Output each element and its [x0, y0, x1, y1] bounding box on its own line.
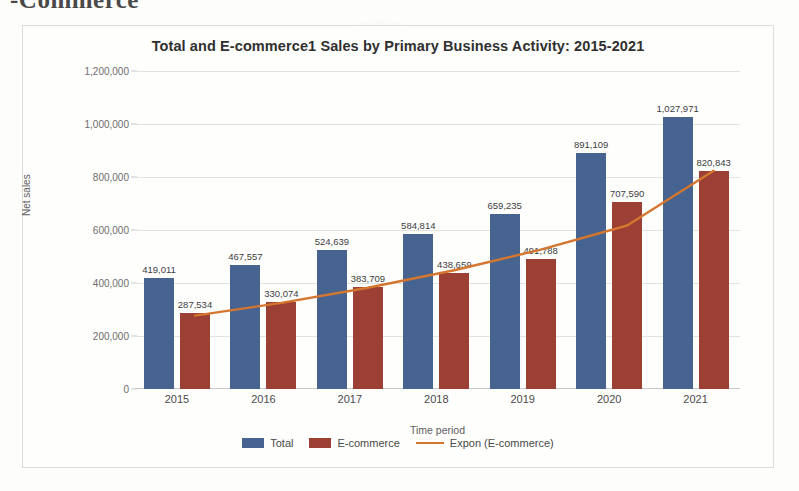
bar-total[interactable] [663, 117, 693, 389]
bar-total[interactable] [317, 250, 347, 389]
legend-item[interactable]: E-commerce [309, 437, 399, 449]
bar-value-label: 491,788 [524, 245, 558, 256]
legend-swatch [242, 438, 264, 448]
y-axis-ticks: 0200,000400,000600,000800,0001,000,0001,… [53, 71, 129, 389]
bar-total[interactable] [144, 278, 174, 389]
x-axis-tick-label: 2018 [394, 393, 478, 405]
x-axis-title: Time period [135, 424, 740, 436]
bar-group: 419,011287,5342015 [135, 71, 221, 389]
legend-label: Expon (E-commerce) [450, 437, 554, 449]
x-axis-tick-label: 2015 [135, 393, 219, 405]
legend-swatch [309, 438, 331, 448]
y-axis-tick-label: 800,000 [93, 172, 129, 183]
bar-group: 467,557330,0742016 [221, 71, 307, 389]
bar-ecom[interactable] [699, 171, 729, 389]
document-cutoff-heading: -Commerce [10, 0, 139, 14]
y-axis-tick-label: 1,000,000 [85, 119, 130, 130]
bar-ecom[interactable] [180, 313, 210, 389]
bar-ecom[interactable] [526, 259, 556, 389]
bar-group: 584,814438,6592018 [394, 71, 480, 389]
y-axis-title: Net sales [21, 174, 32, 216]
x-axis-tick-label: 2017 [308, 393, 392, 405]
y-axis-tick-label: 400,000 [93, 278, 129, 289]
bar-value-label: 419,011 [142, 264, 176, 275]
bar-value-label: 820,843 [696, 157, 730, 168]
bar-value-label: 438,659 [437, 259, 471, 270]
bar-total[interactable] [403, 234, 433, 389]
bar-total[interactable] [576, 153, 606, 389]
bar-value-label: 524,639 [315, 236, 349, 247]
chart-title: Total and E-commerce1 Sales by Primary B… [23, 38, 773, 54]
bar-ecom[interactable] [266, 302, 296, 389]
bar-value-label: 584,814 [401, 220, 435, 231]
x-axis-tick-label: 2016 [221, 393, 305, 405]
bar-ecom[interactable] [353, 287, 383, 389]
legend-item[interactable]: Expon (E-commerce) [416, 437, 554, 449]
bar-value-label: 287,534 [178, 299, 212, 310]
bar-ecom[interactable] [439, 273, 469, 389]
bar-value-label: 659,235 [488, 200, 522, 211]
y-axis-tick-label: 600,000 [93, 225, 129, 236]
bar-value-label: 330,074 [264, 288, 298, 299]
bar-total[interactable] [490, 214, 520, 389]
bar-group: 659,235491,7882019 [481, 71, 567, 389]
bar-group: 891,109707,5902020 [567, 71, 653, 389]
bar-value-label: 1,027,971 [656, 103, 698, 114]
x-axis-tick-label: 2021 [654, 393, 738, 405]
x-axis-tick-label: 2020 [567, 393, 651, 405]
chart-legend: TotalE-commerceExpon (E-commerce) [23, 437, 773, 449]
bar-value-label: 383,709 [351, 273, 385, 284]
plot-area: 419,011287,5342015467,557330,0742016524,… [135, 71, 740, 389]
legend-label: Total [270, 437, 293, 449]
legend-swatch [416, 442, 444, 444]
y-axis-tick-label: 200,000 [93, 331, 129, 342]
bar-value-label: 891,109 [574, 139, 608, 150]
y-axis-tick-label: 1,200,000 [85, 66, 130, 77]
y-axis-tick-label: 0 [123, 384, 129, 395]
bar-total[interactable] [230, 265, 260, 389]
bar-ecom[interactable] [612, 202, 642, 390]
bar-value-label: 467,557 [228, 251, 262, 262]
chart-container: Total and E-commerce1 Sales by Primary B… [22, 25, 774, 468]
legend-label: E-commerce [337, 437, 399, 449]
x-axis-tick-label: 2019 [481, 393, 565, 405]
bar-value-label: 707,590 [610, 188, 644, 199]
bar-group: 524,639383,7092017 [308, 71, 394, 389]
bar-group: 1,027,971820,8432021 [654, 71, 740, 389]
legend-item[interactable]: Total [242, 437, 293, 449]
